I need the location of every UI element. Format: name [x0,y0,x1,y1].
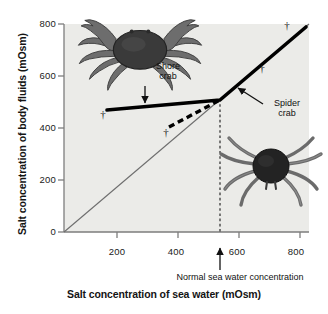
spider-crab-label-line1: Spider [274,98,300,108]
tolerance-marker-shore-low: † [100,108,106,120]
spider-crab-label-line2: crab [278,108,296,118]
shore-crab-label-line1: Shore [156,61,180,71]
chart-svg: † † † † [0,0,328,314]
tolerance-marker-spider-high: † [259,62,265,74]
normal-sea-water-label: Normal sea water concentration [150,272,328,282]
tolerance-marker-shore-high: † [284,19,290,31]
shore-crab-annotation-label: Shore crab [147,61,189,81]
spider-crab-annotation-label: Spider crab [266,98,308,118]
figure-container: Salt concentration of body fluids (mOsm)… [0,0,328,314]
tolerance-marker-spider-low: † [163,126,169,138]
spider-crab-annotation-arrow [238,88,263,104]
spider-crab-illustration [221,138,321,205]
shore-crab-label-line2: crab [159,71,177,81]
